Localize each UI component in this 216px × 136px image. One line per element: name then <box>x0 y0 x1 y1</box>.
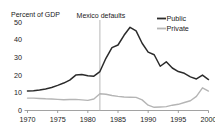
mexico-defaults-label: Mexico defaults <box>77 12 126 19</box>
x-tick-label: 1990 <box>140 115 156 124</box>
x-tick-label: 2000 <box>201 115 216 124</box>
line-chart: Percent of GDP 01020304050 1970197519801… <box>0 0 215 136</box>
y-tick-label: 50 <box>14 18 22 27</box>
x-tick-label: 1970 <box>20 115 36 124</box>
y-tick-label: 20 <box>14 71 22 80</box>
x-axis-tick-labels: 1970197519801985199019952000 <box>20 111 216 124</box>
legend-label-public: Public <box>167 14 187 23</box>
x-tick-label: 1980 <box>80 115 96 124</box>
y-axis-tick-labels: 01020304050 <box>14 18 22 116</box>
series-line-private <box>28 88 209 107</box>
legend-label-private: Private <box>167 24 189 33</box>
x-tick-label: 1975 <box>50 115 66 124</box>
series-line-public <box>28 27 209 91</box>
x-tick-label: 1995 <box>170 115 186 124</box>
legend: Public Private <box>157 14 189 33</box>
chart-container: Percent of GDP 01020304050 1970197519801… <box>0 0 215 136</box>
y-tick-label: 10 <box>14 88 22 97</box>
x-tick-label: 1985 <box>110 115 126 124</box>
y-tick-label: 40 <box>14 35 22 44</box>
y-tick-label: 30 <box>14 53 22 62</box>
